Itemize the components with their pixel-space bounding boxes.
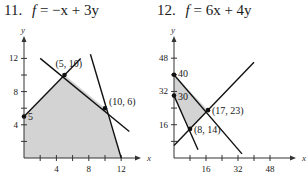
- vertex-label: (10, 6): [109, 96, 136, 108]
- vertex-point: [172, 93, 177, 98]
- x-axis-label: x: [146, 153, 151, 163]
- charts-canvas: xy481248125(5, 10)(10, 6)xy1632481632484…: [0, 0, 308, 181]
- x-axis-arrow-icon: [290, 156, 296, 161]
- vertex-label: 40: [178, 68, 188, 79]
- y-tick-label: 16: [159, 120, 169, 130]
- y-tick-label: 8: [14, 87, 19, 97]
- y-axis-label: y: [20, 25, 25, 35]
- x-tick-label: 4: [54, 164, 59, 174]
- y-tick-label: 48: [159, 53, 169, 63]
- feasible-region: [174, 75, 208, 129]
- vertex-label: 5: [28, 111, 33, 122]
- y-axis-arrow-icon: [172, 36, 177, 42]
- vertex-point: [188, 127, 193, 132]
- vertex-label: (17, 23): [212, 105, 244, 117]
- x-tick-label: 16: [202, 164, 212, 174]
- vertex-label: (8, 14): [194, 124, 221, 136]
- vertex-point: [172, 73, 177, 78]
- x-axis-arrow-icon: [135, 156, 141, 161]
- vertex-point: [206, 108, 211, 113]
- y-tick-label: 32: [159, 86, 168, 96]
- vertex-label: (5, 10): [56, 58, 83, 70]
- vertex-point: [103, 106, 108, 111]
- vertex-point: [62, 73, 67, 78]
- x-tick-label: 32: [234, 164, 243, 174]
- y-tick-label: 4: [14, 120, 19, 130]
- feasible-region: [24, 75, 121, 158]
- vertex-point: [22, 114, 27, 119]
- y-axis-arrow-icon: [22, 36, 27, 42]
- vertex-label: 30: [178, 91, 188, 102]
- x-tick-label: 12: [117, 164, 126, 174]
- x-axis-label: x: [301, 153, 306, 163]
- y-axis-label: y: [170, 25, 175, 35]
- y-tick-label: 12: [9, 53, 18, 63]
- x-tick-label: 48: [266, 164, 276, 174]
- x-tick-label: 8: [87, 164, 92, 174]
